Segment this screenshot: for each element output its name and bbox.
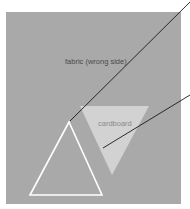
diagram: fabric (wrong side) cardboard [0,0,190,209]
fabric-label: fabric (wrong side) [65,57,127,66]
cardboard-label: cardboard [98,119,132,128]
